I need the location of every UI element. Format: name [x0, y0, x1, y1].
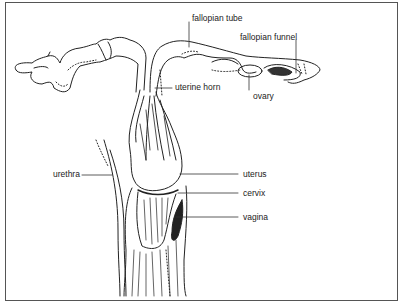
label-vagina: vagina	[243, 212, 268, 222]
urethra-shape	[104, 140, 120, 296]
label-fallopian-funnel: fallopian funnel	[240, 32, 297, 42]
label-uterus: uterus	[243, 169, 267, 179]
reproductive-tract-illustration	[0, 0, 407, 304]
label-uterine-horn: uterine horn	[175, 82, 220, 92]
label-fallopian-tube: fallopian tube	[192, 13, 243, 23]
fallopian-funnel-shape	[268, 67, 292, 75]
label-cervix: cervix	[243, 188, 265, 198]
label-urethra: urethra	[53, 169, 80, 179]
uterus-shape	[129, 90, 182, 191]
ovary-shape	[238, 65, 262, 77]
label-ovary: ovary	[253, 91, 274, 101]
